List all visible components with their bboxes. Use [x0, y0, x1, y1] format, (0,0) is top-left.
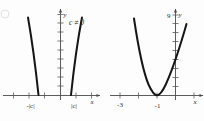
chart-right-svg: x y -3 -1 9	[102, 0, 204, 121]
curve-right-branch	[71, 18, 82, 96]
x-axis-arrow-right	[200, 94, 204, 97]
x-tick-label-neg-abs-c: -|c|	[26, 102, 34, 110]
x-tick-label-neg-one: -1	[155, 102, 161, 110]
curve-left-branch	[28, 18, 39, 96]
chart-panel-right: x y -3 -1 9	[102, 0, 204, 121]
y-axis-label-left: y	[63, 11, 68, 19]
annotation-c-not-zero: c ≠ 0	[69, 18, 84, 27]
x-axis-arrow-left	[97, 94, 101, 97]
chart-left-svg: x y -|c| |c| c ≠ 0	[0, 0, 102, 121]
x-axis-label-right: x	[193, 98, 198, 106]
y-axis-arrow-left	[59, 9, 62, 13]
scan-artifact-smudge	[1, 10, 9, 18]
x-axis-label-left: x	[90, 98, 95, 106]
x-tick-label-abs-c: |c|	[71, 102, 77, 110]
y-tick-label-nine: 9	[167, 12, 171, 20]
y-axis-arrow-right	[174, 9, 177, 13]
y-axis-label-right: y	[178, 11, 183, 19]
curve-parabola	[134, 19, 187, 96]
figure-root: x y -|c| |c| c ≠ 0	[0, 0, 204, 121]
chart-panel-left: x y -|c| |c| c ≠ 0	[0, 0, 102, 121]
x-tick-label-neg-three: -3	[117, 101, 123, 109]
